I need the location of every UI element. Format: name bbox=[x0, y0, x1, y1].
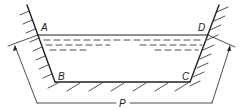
arrowhead-left-icon bbox=[13, 45, 17, 51]
water-dashes bbox=[44, 40, 202, 50]
label-p: P bbox=[119, 98, 126, 109]
bed-hatching bbox=[67, 83, 188, 91]
right-bank-hatching bbox=[190, 7, 228, 86]
label-c: C bbox=[182, 71, 190, 82]
right-bank bbox=[190, 5, 219, 82]
channel-diagram: A B C D P bbox=[0, 0, 244, 111]
label-b: B bbox=[58, 71, 65, 82]
label-a: A bbox=[40, 22, 48, 33]
label-d: D bbox=[198, 22, 205, 33]
arrowhead-right-icon bbox=[227, 45, 231, 51]
left-bank bbox=[27, 5, 55, 82]
